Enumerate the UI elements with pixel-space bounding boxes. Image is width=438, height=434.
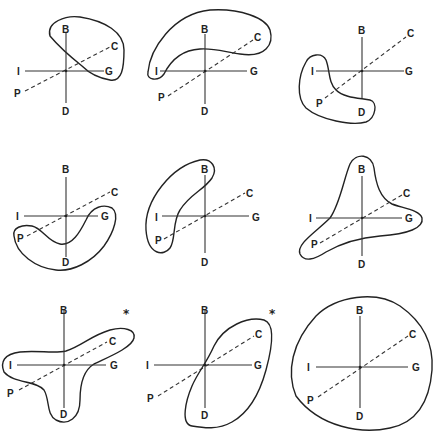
label-g: G	[101, 211, 109, 222]
label-c: C	[255, 329, 262, 340]
label-p: P	[155, 235, 162, 246]
axis-diagonal	[320, 195, 402, 243]
origin-dot	[361, 70, 364, 73]
label-g: G	[405, 66, 413, 77]
label-b: B	[356, 305, 363, 316]
label-g: G	[405, 213, 413, 224]
label-b: B	[358, 164, 365, 175]
label-i: I	[146, 360, 149, 371]
label-g: G	[105, 66, 113, 77]
label-c: C	[246, 188, 253, 199]
label-b: B	[358, 25, 365, 36]
label-d: D	[62, 106, 69, 117]
panel-4: B D I G C P	[14, 164, 118, 270]
panel-6: B D I G C P	[299, 156, 422, 270]
axis-diagonal	[19, 342, 107, 390]
label-b: B	[201, 164, 208, 175]
axis-diagonal	[325, 37, 406, 98]
diagram-grid: B D I G C P B D I G C P B D I G C P	[0, 0, 438, 434]
label-b: B	[60, 305, 67, 316]
label-c: C	[407, 28, 414, 39]
origin-dot	[65, 70, 68, 73]
label-b: B	[62, 164, 69, 175]
label-b: B	[62, 24, 69, 35]
label-i: I	[9, 360, 12, 371]
asterisk-marker: *	[123, 307, 130, 321]
origin-dot	[361, 217, 364, 220]
origin-dot	[65, 215, 68, 218]
label-d: D	[201, 106, 208, 117]
label-d: D	[201, 410, 208, 421]
panel-3: B D I G C P	[299, 25, 414, 123]
label-g: G	[412, 362, 420, 373]
axis-diagonal	[27, 192, 110, 236]
axis-diagonal	[158, 336, 254, 396]
label-i: I	[17, 66, 20, 77]
label-c: C	[109, 336, 116, 347]
panel-5: B D I G C P	[146, 160, 260, 268]
label-p: P	[316, 98, 323, 109]
label-c: C	[403, 188, 410, 199]
label-p: P	[147, 393, 154, 404]
label-b: B	[201, 24, 208, 35]
panel-8: B D I G C P *	[146, 305, 276, 428]
panel-9: B D I G C P	[291, 297, 432, 430]
label-p: P	[311, 239, 318, 250]
label-i: I	[155, 66, 158, 77]
label-p: P	[7, 388, 14, 399]
axis-diagonal	[168, 40, 253, 96]
label-g: G	[250, 66, 258, 77]
label-i: I	[311, 66, 314, 77]
panel-1: B D I G C P	[14, 17, 124, 117]
origin-dot	[204, 215, 207, 218]
origin-dot	[204, 70, 207, 73]
label-g: G	[254, 360, 262, 371]
label-d: D	[201, 257, 208, 268]
label-i: I	[309, 213, 312, 224]
label-p: P	[17, 233, 24, 244]
label-c: C	[254, 32, 261, 43]
origin-dot	[63, 364, 66, 367]
label-i: I	[16, 211, 19, 222]
label-d: D	[358, 107, 365, 118]
label-i: I	[155, 212, 158, 223]
label-c: C	[409, 329, 416, 340]
label-d: D	[62, 257, 69, 268]
label-g: G	[252, 212, 260, 223]
panel-7: B D I G C P *	[3, 305, 135, 422]
label-p: P	[158, 92, 165, 103]
label-p: P	[14, 88, 21, 99]
asterisk-marker: *	[269, 307, 276, 321]
label-c: C	[111, 41, 118, 52]
label-g: G	[110, 360, 118, 371]
label-d: D	[358, 259, 365, 270]
label-d: D	[60, 409, 67, 420]
label-i: I	[307, 362, 310, 373]
panel-2: B D I G C P	[148, 10, 271, 117]
label-b: B	[201, 305, 208, 316]
label-d: D	[356, 411, 363, 422]
origin-dot	[359, 366, 362, 369]
label-c: C	[111, 187, 118, 198]
origin-dot	[204, 364, 207, 367]
label-p: P	[307, 395, 314, 406]
